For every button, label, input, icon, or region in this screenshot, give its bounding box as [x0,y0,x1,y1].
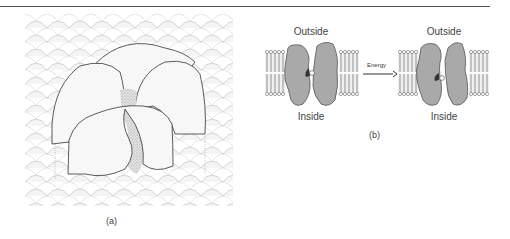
panel-b-diagram: Outside Inside Energy Outside Inside (b) [255,0,510,150]
membrane-protein-stipple-icon [25,14,233,206]
right-inside-label: Inside [431,111,458,122]
left-inside-label: Inside [298,111,325,122]
energy-arrow-label: Energy [367,62,386,68]
panel-b-label: (b) [369,130,380,140]
left-outside-label: Outside [294,26,328,37]
right-outside-label: Outside [427,26,461,37]
panel-a-label: (a) [106,216,117,226]
panel-a-illustration [25,14,233,206]
transport-diagram-icon [255,0,510,150]
